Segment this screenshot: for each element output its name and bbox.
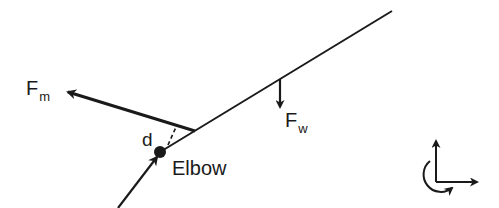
weight-force-label-subscript: w — [298, 121, 307, 136]
weight-force-label-main: F — [285, 109, 297, 131]
moment-arm-label: d — [142, 130, 153, 149]
muscle-force-label: Fm — [26, 78, 49, 98]
elbow-joint-dot — [154, 146, 166, 158]
rotation-arc-arrow — [424, 161, 452, 192]
free-body-diagram — [0, 0, 499, 208]
weight-force-label: Fw — [285, 110, 307, 130]
muscle-force-arrow — [68, 92, 195, 131]
upper-arm-arrow — [118, 157, 157, 208]
muscle-force-label-main: F — [26, 77, 38, 99]
coordinate-system-icon — [424, 141, 477, 192]
elbow-label: Elbow — [172, 158, 226, 178]
muscle-force-label-subscript: m — [39, 89, 50, 104]
